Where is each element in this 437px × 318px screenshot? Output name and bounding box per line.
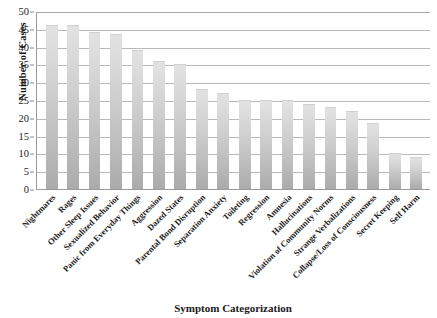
- x-axis-title: Symptom Categorization: [36, 302, 430, 314]
- bar-series: [37, 12, 430, 189]
- bar: [132, 50, 144, 189]
- bar-slot: [405, 12, 426, 189]
- bar-slot: [384, 12, 405, 189]
- y-tick-mark: [30, 101, 34, 102]
- bar: [46, 25, 58, 189]
- y-tick-label: 45: [0, 25, 29, 36]
- bar: [196, 89, 208, 189]
- bar: [174, 64, 186, 189]
- plot-area: [36, 12, 430, 190]
- bar: [217, 93, 229, 189]
- bar: [325, 107, 337, 189]
- y-tick-mark: [30, 83, 34, 84]
- bar-slot: [341, 12, 362, 189]
- y-tick-mark: [30, 190, 34, 191]
- y-tick-mark: [30, 136, 34, 137]
- y-tick-label: 0: [0, 185, 29, 196]
- bar-slot: [105, 12, 126, 189]
- y-tick-mark: [30, 154, 34, 155]
- bar: [67, 25, 79, 189]
- y-tick-mark: [30, 29, 34, 30]
- x-label-slot: Self Harm: [405, 191, 426, 291]
- bar-slot: [84, 12, 105, 189]
- x-tick-label: Nightmares: [20, 193, 57, 230]
- y-tick-mark: [30, 118, 34, 119]
- bar: [389, 153, 401, 189]
- y-tick-label: 5: [0, 167, 29, 178]
- bar-slot: [277, 12, 298, 189]
- y-tick-mark: [30, 47, 34, 48]
- y-tick-label: 20: [0, 114, 29, 125]
- y-tick-label: 25: [0, 96, 29, 107]
- bar-slot: [298, 12, 319, 189]
- bar: [260, 100, 272, 189]
- bar: [153, 61, 165, 189]
- bar-slot: [213, 12, 234, 189]
- y-tick-label: 30: [0, 78, 29, 89]
- bar-slot: [191, 12, 212, 189]
- bar: [239, 100, 251, 189]
- bar: [303, 104, 315, 189]
- bar: [282, 100, 294, 189]
- bar-slot: [320, 12, 341, 189]
- bar: [110, 34, 122, 189]
- bar-slot: [170, 12, 191, 189]
- bar-slot: [41, 12, 62, 189]
- y-tick-label: 35: [0, 60, 29, 71]
- y-tick-mark: [30, 172, 34, 173]
- bar-slot: [62, 12, 83, 189]
- y-tick-label: 10: [0, 149, 29, 160]
- bar: [89, 32, 101, 189]
- bar-slot: [234, 12, 255, 189]
- x-axis-tick-labels: NightmaresRagesOther Sleep IssuesSexuali…: [36, 191, 430, 291]
- bar-chart: Number of Cases 05101520253035404550 Nig…: [0, 0, 437, 318]
- bar: [367, 123, 379, 189]
- bar: [410, 157, 422, 189]
- y-axis-tick-labels: 05101520253035404550: [0, 12, 34, 190]
- bar-slot: [255, 12, 276, 189]
- bar: [346, 111, 358, 189]
- bar-slot: [363, 12, 384, 189]
- y-tick-label: 40: [0, 42, 29, 53]
- bar-slot: [127, 12, 148, 189]
- y-tick-mark: [30, 12, 34, 13]
- y-tick-label: 15: [0, 131, 29, 142]
- y-tick-label: 50: [0, 7, 29, 18]
- y-tick-mark: [30, 65, 34, 66]
- bar-slot: [148, 12, 169, 189]
